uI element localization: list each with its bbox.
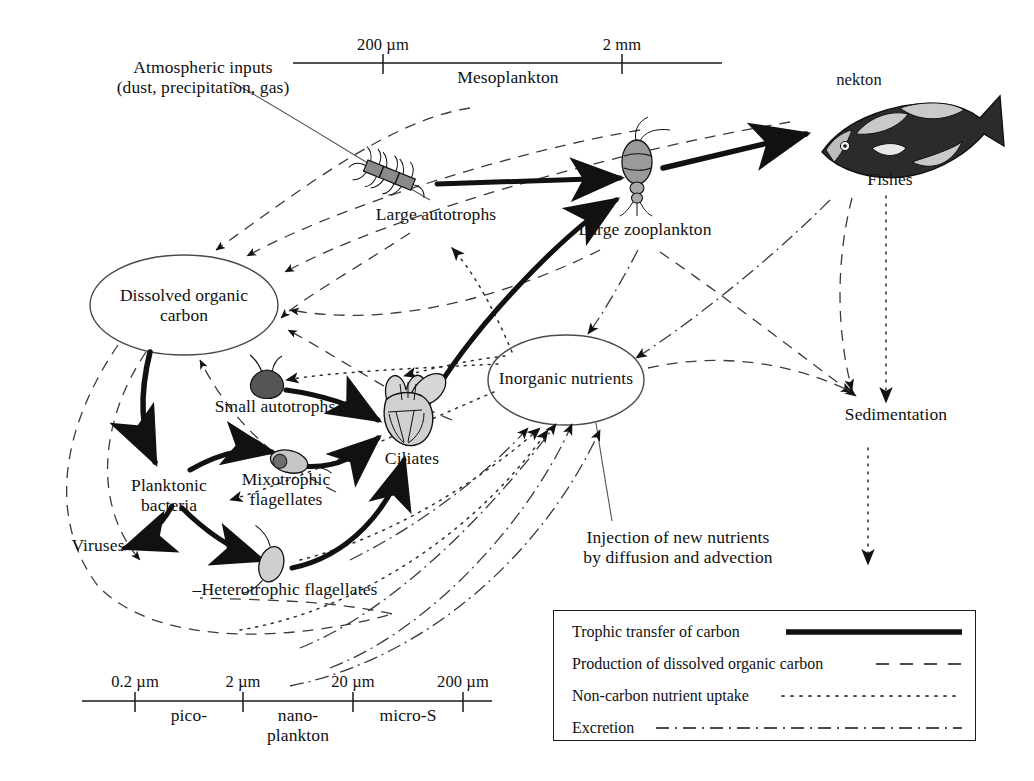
carbon-bacteria-to-heteroflagellates <box>182 508 262 560</box>
nekton-label: nekton <box>836 71 882 89</box>
mixotrophic-flagellates-label: Mixotrophic flagellates <box>242 470 331 509</box>
large-autotrophs-icon <box>344 141 434 208</box>
legend-label-trophic-transfer: Trophic transfer of carbon <box>572 623 740 641</box>
figure-canvas: Atmospheric inputs (dust, precipitation,… <box>0 0 1034 781</box>
large-autotrophs-label: Large autotrophs <box>376 205 496 225</box>
doc-flow-from-zooplankton-to-doc <box>290 250 600 315</box>
ciliates-label: Ciliates <box>385 449 439 469</box>
legend-swatch-excretion <box>654 723 964 733</box>
fish-icon <box>822 96 1004 178</box>
legend-label-excretion: Excretion <box>572 719 634 737</box>
top-scale-tick-2mm: 2 mm <box>603 36 641 54</box>
ciliates-icon <box>384 374 446 446</box>
excretion-from-zooplankton <box>588 250 638 334</box>
nanoplankton-band-label-line1: nano- <box>278 706 318 726</box>
legend-label-doc-production: Production of dissolved organic carbon <box>572 655 823 673</box>
doc-flow-nutrients-to-right <box>648 360 852 392</box>
carbon-bacteria-to-mixotrophs <box>190 450 272 470</box>
dissolved-organic-carbon-label: Dissolved organic carbon <box>120 286 248 325</box>
excretion-from-lower-left-2 <box>330 424 572 668</box>
large-zooplankton-label: Large zooplankton <box>578 220 711 240</box>
carbon-large-autotrophs-to-zooplankton <box>437 178 620 184</box>
planktonic-bacteria-label: Planktonic bacteria <box>131 476 207 515</box>
legend-swatch-trophic-transfer <box>784 627 964 637</box>
doc-flow-from-heteroflagellates <box>200 598 392 614</box>
bottom-scale-tick-0-2um: 0.2 µm <box>111 673 159 691</box>
injection-of-new-nutrients-label: Injection of new nutrients by diffusion … <box>583 528 772 567</box>
heterotrophic-flagellates-label: –Heterotrophic flagellates <box>193 580 378 600</box>
legend-swatch-doc-production <box>874 659 964 669</box>
fishes-label: Fishes <box>867 170 912 190</box>
sedimentation-label: Sedimentation <box>845 405 947 425</box>
doc-flow-from-upper-right-a <box>216 108 470 250</box>
legend-label-nutrient-uptake: Non-carbon nutrient uptake <box>572 687 749 705</box>
doc-flow-zoo-to-sediment <box>660 252 856 396</box>
carbon-zooplankton-to-fishes <box>663 134 806 168</box>
picoplankton-band-label: pico- <box>171 706 207 726</box>
excretion-from-heteroflagellates <box>350 428 528 560</box>
small-autotrophs-icon <box>250 355 283 399</box>
nanoplankton-band-label-line2: plankton <box>267 726 329 746</box>
bottom-scale-tick-2um: 2 µm <box>225 673 260 691</box>
doc-flow-from-upper-right-c <box>285 122 790 272</box>
carbon-mixotrophs-to-ciliates <box>300 438 378 467</box>
inorganic-nutrients-label: Inorganic nutrients <box>499 369 633 389</box>
carbon-doc-to-bacteria <box>143 352 155 462</box>
doc-flow-fish-to-sediment <box>840 198 852 390</box>
doc-flow-from-large-autotrophs <box>281 233 410 318</box>
bottom-scale-tick-200um: 200 µm <box>437 673 489 691</box>
mesoplankton-band-label: Mesoplankton <box>457 68 558 88</box>
small-autotrophs-label: Small autotrophs <box>215 397 336 417</box>
legend-swatch-nutrient-uptake <box>780 691 964 701</box>
microplankton-band-label: micro-S <box>379 706 436 726</box>
legend-box: Trophic transfer of carbon Production of… <box>553 610 976 741</box>
doc-flow-left-inner-loop <box>108 352 146 560</box>
atmospheric-inputs-label: Atmospheric inputs (dust, precipitation,… <box>117 58 290 97</box>
viruses-label: Viruses <box>71 536 124 556</box>
trophic-carbon-flows <box>125 134 806 568</box>
injection-leader <box>596 423 612 521</box>
bottom-scale-tick-20um: 20 µm <box>331 673 374 691</box>
top-scale-tick-200um: 200 µm <box>357 36 409 54</box>
